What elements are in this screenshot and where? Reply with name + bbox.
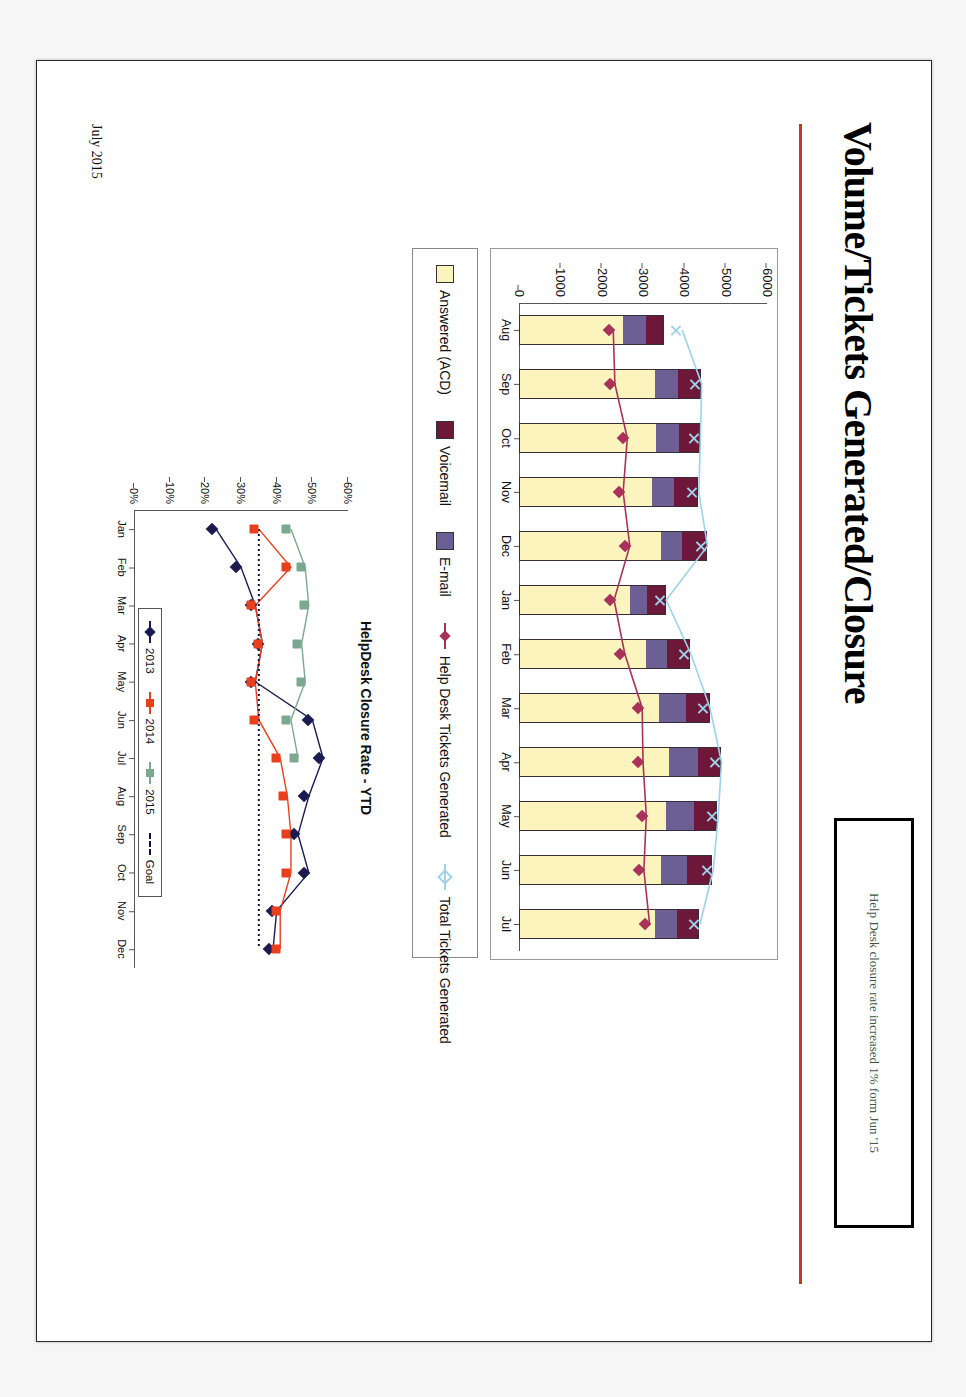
closure-chart-x-tick: Jul [116, 751, 134, 765]
footer-date: July 2015 [88, 124, 104, 179]
closure-chart-x-tick: May [116, 671, 134, 692]
legend-line-swatch [444, 623, 446, 649]
total-tickets-marker [686, 486, 699, 499]
legend-swatch [436, 532, 454, 550]
closure-point-2014 [253, 639, 262, 648]
volume-chart-y-tick: 5000 [718, 268, 733, 303]
title-rule [799, 124, 802, 1284]
total-tickets-marker [694, 540, 707, 553]
closure-chart-x-tick: Nov [116, 901, 134, 921]
total-tickets-marker [709, 756, 722, 769]
volume-chart-lines [519, 303, 767, 951]
closure-rate-chart: HelpDesk Closure Rate - YTD 0%10%20%30%4… [106, 458, 374, 978]
closure-point-2015 [300, 601, 309, 610]
legend-label: Answered (ACD) [437, 290, 453, 395]
legend-item: E-mail [436, 532, 454, 597]
volume-chart-x-tick: Jul [499, 916, 519, 932]
legend-label: E-mail [437, 557, 453, 597]
closure-point-2014 [278, 792, 287, 801]
closure-chart-y-tick: 30% [235, 482, 247, 510]
legend-swatch [436, 421, 454, 439]
closure-point-2015 [289, 754, 298, 763]
volume-chart-x-tick: Apr [499, 752, 519, 771]
page-title: Volume/Tickets Generated/Closure [835, 122, 882, 704]
closure-chart-x-tick: Mar [116, 596, 134, 615]
closure-point-2014 [271, 906, 280, 915]
legend-line-swatch [149, 762, 151, 784]
volume-chart-y-tick: 4000 [677, 268, 692, 303]
closure-point-2014 [271, 754, 280, 763]
closure-point-2014 [282, 830, 291, 839]
volume-chart-x-tick: Dec [499, 535, 519, 557]
volume-chart-x-tick: Sep [499, 373, 519, 395]
total-tickets-marker [705, 810, 718, 823]
closure-chart-x-tick: Oct [116, 864, 134, 881]
legend-item: 2014 [144, 692, 156, 745]
slide-canvas: Volume/Tickets Generated/Closure Help De… [38, 62, 930, 1340]
volume-chart: 0100020003000400050006000AugSepOctNovDec… [490, 248, 778, 960]
volume-chart-x-tick: Aug [499, 319, 519, 341]
volume-chart-x-tick: May [499, 804, 519, 828]
closure-chart-legend: 201320142015Goal [138, 608, 162, 897]
slide-sheet: Volume/Tickets Generated/Closure Help De… [36, 60, 932, 1342]
closure-point-2015 [293, 639, 302, 648]
closure-chart-title: HelpDesk Closure Rate - YTD [358, 458, 374, 978]
total-tickets-marker [669, 324, 682, 337]
legend-line-swatch [149, 621, 151, 643]
volume-chart-legend: Answered (ACD)VoicemailE-mailHelp Desk T… [412, 248, 478, 958]
total-tickets-marker [653, 594, 666, 607]
volume-chart-plot: 0100020003000400050006000AugSepOctNovDec… [519, 303, 767, 951]
legend-item: 2013 [144, 621, 156, 674]
legend-item: Total Tickets Generated [437, 864, 453, 1044]
closure-chart-x-tick: Jun [116, 711, 134, 729]
total-tickets-marker [687, 918, 700, 931]
closure-chart-plot: 0%10%20%30%40%50%60%JanFebMarAprMayJunJu… [134, 510, 348, 968]
volume-chart-x-tick: Nov [499, 481, 519, 503]
legend-item: Answered (ACD) [436, 265, 454, 395]
legend-line-swatch [149, 692, 151, 714]
closure-point-2015 [296, 677, 305, 686]
volume-chart-y-tick: 2000 [594, 268, 609, 303]
total-tickets-marker [697, 702, 710, 715]
legend-label: 2015 [144, 789, 156, 815]
legend-label: 2013 [144, 648, 156, 674]
closure-chart-y-tick: 50% [306, 482, 318, 510]
volume-chart-y-tick: 1000 [553, 268, 568, 303]
closure-point-2014 [250, 715, 259, 724]
legend-label: Help Desk Tickets Generated [437, 656, 453, 838]
legend-item: 2015 [144, 762, 156, 815]
closure-chart-y-tick: 60% [342, 482, 354, 510]
volume-chart-x-tick: Oct [499, 428, 519, 447]
total-tickets-marker [689, 378, 702, 391]
closure-point-2015 [296, 563, 305, 572]
callout-box: Help Desk closure rate increased 1% form… [834, 818, 914, 1228]
volume-chart-x-tick: Feb [499, 643, 519, 665]
total-tickets-marker [700, 864, 713, 877]
closure-chart-y-tick: 10% [164, 482, 176, 510]
closure-chart-y-tick: 40% [271, 482, 283, 510]
closure-point-2014 [282, 868, 291, 877]
legend-line-swatch [149, 833, 151, 855]
closure-chart-x-tick: Jan [116, 520, 134, 538]
legend-line-swatch [444, 864, 446, 890]
total-tickets-marker [678, 648, 691, 661]
closure-point-2014 [246, 601, 255, 610]
slide-page: Volume/Tickets Generated/Closure Help De… [0, 0, 966, 1397]
volume-chart-y-tick: 3000 [636, 268, 651, 303]
legend-item: Voicemail [436, 421, 454, 506]
closure-chart-x-tick: Aug [116, 786, 134, 806]
closure-point-2015 [282, 715, 291, 724]
closure-chart-x-tick: Sep [116, 825, 134, 845]
volume-chart-x-tick: Jun [499, 860, 519, 880]
legend-label: Total Tickets Generated [437, 897, 453, 1044]
closure-chart-lines [134, 510, 348, 968]
closure-chart-y-tick: 0% [128, 488, 140, 510]
legend-label: Goal [144, 860, 156, 884]
closure-chart-x-tick: Dec [116, 939, 134, 959]
closure-point-2014 [271, 944, 280, 953]
volume-chart-x-tick: Jan [499, 590, 519, 610]
legend-item: Goal [144, 833, 156, 884]
closure-point-2015 [282, 525, 291, 534]
legend-item: Help Desk Tickets Generated [437, 623, 453, 838]
volume-chart-x-tick: Mar [499, 697, 519, 719]
